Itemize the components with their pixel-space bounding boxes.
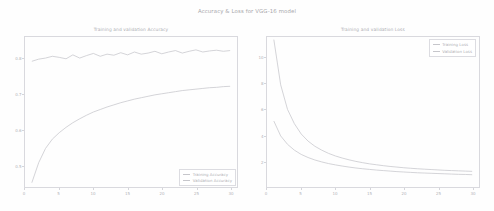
legend-label: Training Accuracy [193, 172, 228, 177]
y-tick-label: 0.7 [15, 91, 21, 96]
x-tick-mark [370, 188, 371, 190]
series-line [274, 121, 472, 175]
accuracy-plot-area [25, 37, 237, 187]
legend-item: Validation Loss [433, 49, 472, 54]
x-tick-label: 20 [402, 191, 407, 196]
accuracy-subplot: Training and validation Accuracy 0.50.60… [24, 36, 238, 188]
legend-swatch-line-icon [433, 44, 440, 45]
x-tick-label: 10 [332, 191, 337, 196]
x-tick-mark [301, 188, 302, 190]
legend-item: Training Loss [433, 42, 472, 47]
x-tick-mark [59, 188, 60, 190]
y-tick-label: 6 [261, 107, 264, 112]
matplotlib-figure: Accuracy & Loss for VGG-16 model Trainin… [0, 0, 494, 211]
loss-subplot-title: Training and validation Loss [266, 27, 480, 32]
accuracy-legend: Training Accuracy Validation Accuracy [179, 169, 236, 187]
x-tick-label: 25 [436, 191, 441, 196]
x-tick-label: 30 [471, 191, 476, 196]
loss-subplot: Training and validation Loss 24681005101… [266, 36, 480, 188]
legend-swatch-line-icon [433, 51, 440, 52]
x-tick-mark [404, 188, 405, 190]
figure-suptitle: Accuracy & Loss for VGG-16 model [0, 8, 494, 14]
loss-axes [266, 36, 480, 188]
accuracy-subplot-title: Training and validation Accuracy [24, 27, 238, 32]
y-tick-label: 0.5 [15, 164, 21, 169]
y-tick-label: 4 [261, 133, 264, 138]
y-tick-label: 2 [261, 159, 264, 164]
x-tick-mark [439, 188, 440, 190]
legend-item: Validation Accuracy [183, 178, 232, 183]
legend-label: Validation Accuracy [193, 178, 232, 183]
loss-legend: Training Loss Validation Loss [429, 39, 476, 57]
x-tick-mark [24, 188, 25, 190]
accuracy-axes [24, 36, 238, 188]
x-tick-label: 5 [299, 191, 302, 196]
x-tick-mark [93, 188, 94, 190]
x-tick-mark [473, 188, 474, 190]
series-line [32, 50, 230, 61]
legend-label: Validation Loss [442, 49, 472, 54]
x-tick-mark [335, 188, 336, 190]
x-tick-label: 15 [367, 191, 372, 196]
x-tick-mark [197, 188, 198, 190]
x-tick-label: 10 [90, 191, 95, 196]
y-tick-label: 8 [261, 81, 264, 86]
y-tick-label: 10 [258, 54, 263, 59]
series-line [274, 40, 472, 172]
legend-swatch-line-icon [183, 180, 190, 181]
x-tick-label: 25 [194, 191, 199, 196]
x-tick-label: 30 [229, 191, 234, 196]
x-tick-mark [162, 188, 163, 190]
legend-item: Training Accuracy [183, 172, 232, 177]
y-tick-label: 0.8 [15, 55, 21, 60]
legend-swatch-line-icon [183, 174, 190, 175]
y-tick-label: 0.6 [15, 128, 21, 133]
loss-plot-area [267, 37, 479, 187]
x-tick-mark [128, 188, 129, 190]
x-tick-mark [266, 188, 267, 190]
x-tick-label: 15 [125, 191, 130, 196]
x-tick-mark [231, 188, 232, 190]
x-tick-label: 5 [57, 191, 60, 196]
x-tick-label: 0 [265, 191, 268, 196]
x-tick-label: 20 [160, 191, 165, 196]
x-tick-label: 0 [23, 191, 26, 196]
legend-label: Training Loss [442, 42, 468, 47]
